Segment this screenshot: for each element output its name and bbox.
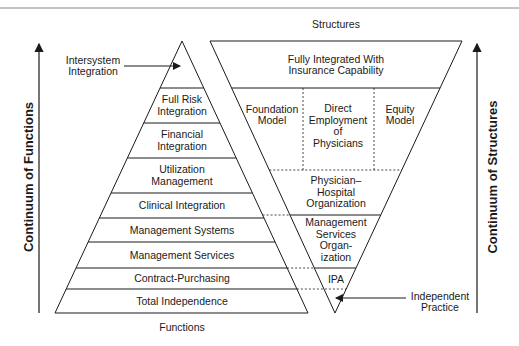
structure-mso-line-1: Management <box>305 216 366 228</box>
structure-direct-employment-line-2: Employment <box>309 114 367 126</box>
function-band-1-line-1: Full Risk <box>162 93 203 105</box>
structures-title: Structures <box>312 18 360 30</box>
function-band-2-line-2: Integration <box>157 140 207 152</box>
structure-direct-employment-line-3: of <box>334 125 343 137</box>
function-band-5-line-1: Management Systems <box>130 224 234 236</box>
structure-pho-line-3: Organization <box>306 197 366 209</box>
function-band-6-line-1: Management Services <box>130 249 234 261</box>
functions-title: Functions <box>159 321 205 333</box>
structure-ipa-line-1: IPA <box>328 273 344 285</box>
structure-direct-employment-line-4: Physicians <box>313 137 363 149</box>
structure-mso-line-4: ization <box>321 251 352 263</box>
intersystem-label-2: Integration <box>68 65 118 77</box>
function-band-1-line-2: Integration <box>157 105 207 117</box>
structure-equity-model-line-1: Equity <box>385 103 415 115</box>
function-band-4-line-1: Clinical Integration <box>139 199 226 211</box>
structure-equity-model-line-2: Model <box>386 114 415 126</box>
function-band-3-line-1: Utilization <box>159 163 205 175</box>
function-band-3-line-2: Management <box>151 175 212 187</box>
structure-pho-line-2: Hospital <box>317 186 355 198</box>
function-band-8-line-1: Total Independence <box>136 295 228 307</box>
integration-diagram: Structures Continuum of Functions Contin… <box>0 0 519 346</box>
structure-mso-line-3: Organ- <box>320 239 353 251</box>
function-band-2-line-1: Financial <box>161 128 203 140</box>
functions-axis-label: Continuum of Functions <box>21 102 36 252</box>
structure-fully-integrated-line-1: Fully Integrated With <box>288 53 384 65</box>
structures-axis-label: Continuum of Structures <box>485 100 500 253</box>
structure-foundation-model-line-1: Foundation <box>246 103 299 115</box>
structure-direct-employment-line-1: Direct <box>324 102 352 114</box>
structure-pho-line-1: Physician– <box>311 174 362 186</box>
structure-mso-line-2: Services <box>316 228 356 240</box>
structure-fully-integrated-line-2: Insurance Capability <box>288 64 384 76</box>
structure-foundation-model-line-2: Model <box>258 114 287 126</box>
function-band-7-line-1: Contract-Purchasing <box>134 272 230 284</box>
independent-label-2: Practice <box>421 301 459 313</box>
